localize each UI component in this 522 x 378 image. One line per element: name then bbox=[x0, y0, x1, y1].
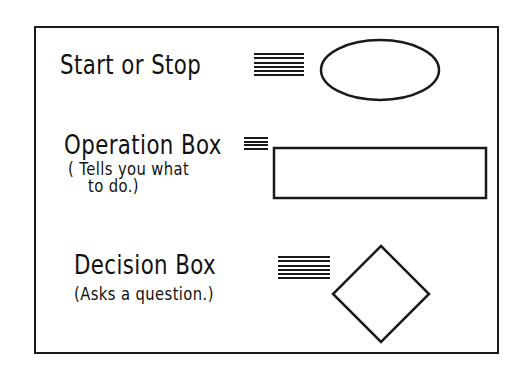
decision-diamond-shape bbox=[333, 246, 429, 342]
operation-rectangle-shape bbox=[274, 148, 486, 198]
flowchart-shapes bbox=[0, 0, 522, 378]
start-stop-ellipse-shape bbox=[321, 40, 439, 100]
